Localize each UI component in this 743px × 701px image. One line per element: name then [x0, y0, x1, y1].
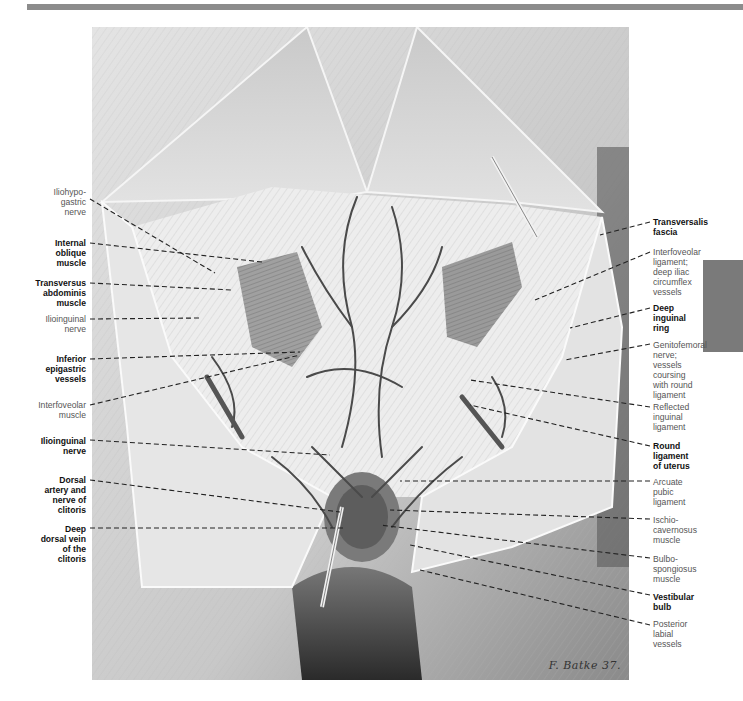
- label-genitofemoral-nerve: Genitofemoral nerve; vessels coursing wi…: [653, 340, 733, 400]
- label-round-ligament-uterus: Round ligament of uterus: [653, 441, 733, 471]
- label-transversalis-fascia: Transversalis fascia: [653, 217, 733, 237]
- label-interfoveolar-muscle: Interfoveolar muscle: [2, 400, 86, 420]
- label-iliohypogastric-nerve: Iliohypo- gastric nerve: [2, 187, 86, 217]
- label-internal-oblique-muscle: Internal oblique muscle: [2, 238, 86, 268]
- header-bar: [27, 4, 743, 10]
- label-inferior-epigastric-vessels: Inferior epigastric vessels: [2, 354, 86, 384]
- label-ilioinguinal-nerve-lower: Ilioinguinal nerve: [2, 436, 86, 456]
- label-vestibular-bulb: Vestibular bulb: [653, 592, 733, 612]
- anatomical-illustration: F. Batke 37.: [92, 27, 629, 680]
- label-bulbospongiosus-muscle: Bulbo- spongiosus muscle: [653, 554, 733, 584]
- label-arcuate-pubic-ligament: Arcuate pubic ligament: [653, 477, 733, 507]
- artist-signature: F. Batke 37.: [549, 659, 621, 672]
- label-dorsal-artery-nerve-clitoris: Dorsal artery and nerve of clitoris: [2, 475, 86, 515]
- label-ilioinguinal-nerve-upper: Ilioinguinal nerve: [2, 314, 86, 334]
- label-reflected-inguinal-ligament: Reflected inguinal ligament: [653, 402, 733, 432]
- label-interfoveolar-ligament: Interfoveolar ligament; deep iliac circu…: [653, 247, 733, 297]
- label-posterior-labial-vessels: Posterior labial vessels: [653, 619, 733, 649]
- label-transversus-abdominis-muscle: Transversus abdominis muscle: [2, 278, 86, 308]
- label-deep-dorsal-vein-clitoris: Deep dorsal vein of the clitoris: [2, 524, 86, 564]
- illustration-drawing: [92, 27, 629, 680]
- label-ischiocavernosus-muscle: Ischio- cavernosus muscle: [653, 515, 733, 545]
- label-deep-inguinal-ring: Deep inguinal ring: [653, 303, 733, 333]
